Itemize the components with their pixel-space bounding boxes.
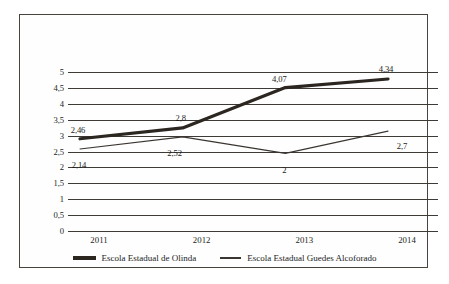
gridline [68, 231, 438, 232]
data-point-label: 2,46 [71, 126, 86, 135]
chart-frame: 54,543,532,521,510,50 2,462,84,074,342,1… [19, 14, 428, 268]
y-axis-tick-label: 5 [34, 68, 64, 77]
legend-item-label: Escola Estadual de Olinda [102, 254, 197, 263]
data-point-label: 2,14 [72, 161, 87, 170]
legend-item-label: Escola Estadual Guedes Alcoforado [247, 254, 376, 263]
y-axis-tick-label: 2 [34, 163, 64, 172]
data-point-label: 2,52 [167, 149, 182, 158]
y-axis-tick-label: 1,5 [34, 179, 64, 188]
legend-item-guedes[interactable]: Escola Estadual Guedes Alcoforado [220, 254, 376, 263]
data-point-label: 2 [282, 166, 286, 175]
y-axis-tick-label: 1 [34, 195, 64, 204]
gridline [68, 215, 438, 216]
data-point-label: 2,7 [397, 142, 407, 151]
gridline [68, 152, 438, 153]
gridline [68, 199, 438, 200]
thin-line-swatch-icon [220, 257, 241, 258]
data-point-label: 2,8 [175, 114, 185, 123]
gridline [68, 136, 438, 137]
thick-line-swatch-icon [73, 256, 96, 259]
y-axis-tick-label: 0 [34, 227, 64, 236]
y-axis-tick-label: 3 [34, 132, 64, 141]
gridline [68, 120, 438, 121]
x-axis-tick-label: 2013 [274, 236, 334, 245]
chart-legend: Escola Estadual de Olinda Escola Estadua… [20, 247, 429, 269]
x-axis-tick-label: 2012 [172, 236, 232, 245]
gridline [68, 167, 438, 168]
gridline [68, 104, 438, 105]
x-axis-tick-label: 2014 [377, 236, 437, 245]
legend-item-olinda[interactable]: Escola Estadual de Olinda [73, 254, 197, 263]
gridline [68, 88, 438, 89]
y-axis-tick-label: 0,5 [34, 211, 64, 220]
gridline [68, 183, 438, 184]
y-axis-tick-label: 3,5 [34, 116, 64, 125]
data-point-label: 4,07 [272, 75, 287, 84]
plot-area [68, 72, 438, 231]
y-axis-tick-label: 4 [34, 100, 64, 109]
y-axis-tick-label: 2,5 [34, 148, 64, 157]
x-axis-tick-label: 2011 [69, 236, 129, 245]
y-axis: 54,543,532,521,510,50 [32, 72, 64, 231]
y-axis-tick-label: 4,5 [34, 84, 64, 93]
data-point-label: 4,34 [379, 65, 394, 74]
